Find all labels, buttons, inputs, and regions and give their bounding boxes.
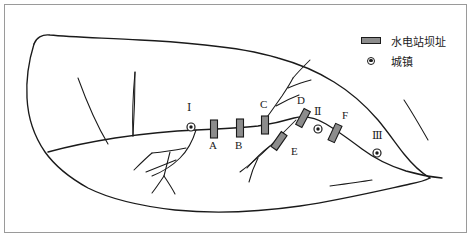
- dam-label-C: C: [260, 99, 267, 110]
- dam-label-D: D: [297, 95, 305, 106]
- legend-row-dam: 水电站坝址: [360, 34, 446, 47]
- watershed-map-figure: A B C D E F Ⅰ Ⅱ Ⅲ 水电站坝址 城镇: [0, 0, 471, 237]
- city-marker-III-dot: [375, 151, 378, 154]
- dam-label-B: B: [235, 140, 242, 151]
- legend-label-city: 城镇: [391, 53, 413, 69]
- tributary-upper-right-3: [293, 60, 310, 78]
- dam-label-F: F: [342, 110, 348, 121]
- dam-label-E: E: [291, 146, 298, 157]
- left-tributary-branch-3: [146, 160, 176, 172]
- left-tributary-branch-4: [134, 153, 152, 170]
- dam-marker-B[interactable]: [237, 119, 244, 137]
- lower-right-channel: [330, 180, 372, 186]
- dam-marker-E[interactable]: [271, 132, 287, 151]
- town-icon: [360, 57, 382, 65]
- left-tributary-trunk: [152, 130, 196, 176]
- left-tributary-branch-6: [164, 176, 175, 194]
- legend-row-city: 城镇: [360, 54, 446, 67]
- map-legend: 水电站坝址 城镇: [360, 34, 446, 67]
- dam-label-A: A: [209, 140, 217, 151]
- city-label-I: Ⅰ: [187, 102, 191, 113]
- legend-label-dam: 水电站坝址: [391, 33, 446, 49]
- dam-site-icon: [360, 37, 382, 44]
- left-tributary-branch-1: [152, 148, 186, 153]
- dam-marker-C[interactable]: [262, 116, 269, 134]
- city-label-III: Ⅲ: [372, 130, 383, 141]
- right-boundary-tail: [404, 100, 428, 140]
- city-marker-I-dot: [189, 125, 192, 128]
- city-marker-II-dot: [316, 127, 319, 130]
- city-label-II: Ⅱ: [314, 106, 321, 117]
- left-tributary-branch-5: [152, 176, 164, 193]
- ridge-line-left: [78, 78, 108, 144]
- dam-marker-D[interactable]: [296, 108, 311, 127]
- dam-marker-A[interactable]: [211, 120, 218, 138]
